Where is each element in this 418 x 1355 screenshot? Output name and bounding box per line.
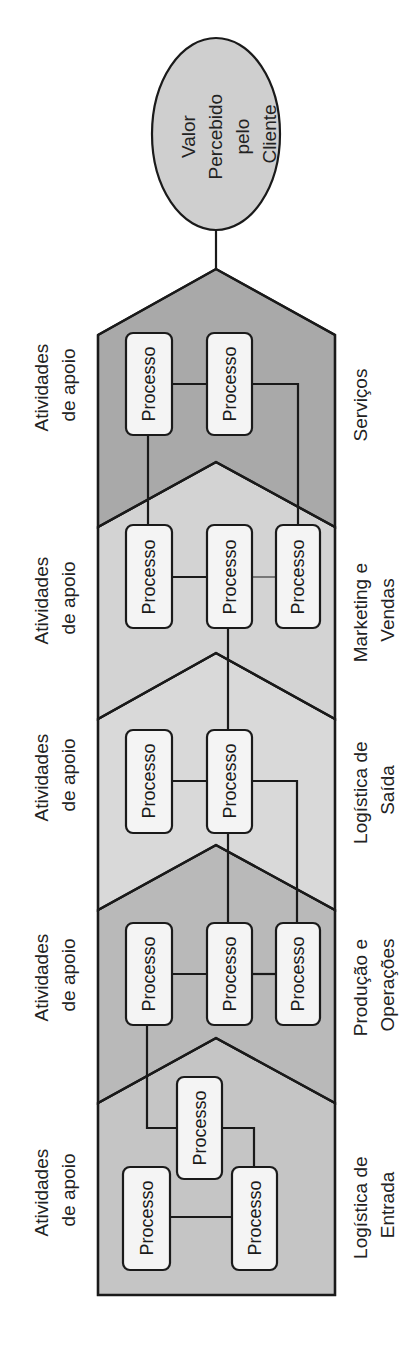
support-label-producao: Atividades de apoio bbox=[31, 929, 79, 1022]
svg-text:Processo: Processo bbox=[288, 936, 308, 1011]
svg-text:Processo: Processo bbox=[245, 1180, 265, 1255]
stage-name-marketing-vendas: Marketing e Vendas bbox=[350, 558, 398, 663]
svg-text:Processo: Processo bbox=[220, 346, 240, 421]
process-box: Processo bbox=[207, 730, 252, 833]
svg-text:Processo: Processo bbox=[220, 539, 240, 614]
svg-text:Processo: Processo bbox=[139, 539, 159, 614]
stage-name-logistica-saida: Logística de Saída bbox=[350, 736, 398, 844]
svg-text:Processo: Processo bbox=[139, 743, 159, 818]
process-box: Processo bbox=[207, 525, 252, 628]
svg-text:Processo: Processo bbox=[139, 936, 159, 1011]
stage-name-servicos: Serviços bbox=[350, 369, 371, 442]
support-label-servicos: Atividades de apoio bbox=[31, 339, 79, 432]
stage-name-producao-operacoes: Produção e Operações bbox=[350, 934, 398, 1036]
svg-text:Processo: Processo bbox=[220, 936, 240, 1011]
svg-text:Processo: Processo bbox=[220, 743, 240, 818]
process-box: Processo bbox=[126, 333, 172, 435]
support-label-saida: Atividades de apoio bbox=[31, 729, 79, 822]
svg-text:Processo: Processo bbox=[190, 1090, 210, 1165]
process-box: Processo bbox=[126, 730, 172, 833]
process-box: Processo bbox=[276, 923, 320, 1025]
process-box: Processo bbox=[207, 333, 252, 435]
process-box: Processo bbox=[123, 1167, 170, 1270]
process-box: Processo bbox=[177, 1077, 222, 1179]
process-box: Processo bbox=[276, 525, 320, 628]
process-box: Processo bbox=[126, 923, 172, 1025]
svg-text:Processo: Processo bbox=[288, 539, 308, 614]
support-label-marketing: Atividades de apoio bbox=[31, 552, 79, 645]
process-box: Processo bbox=[232, 1167, 277, 1270]
process-box: Processo bbox=[207, 923, 252, 1025]
process-box: Processo bbox=[126, 525, 172, 628]
value-chain-diagram: Valor Percebido pelo Cliente Processo Pr… bbox=[0, 0, 418, 1355]
svg-text:Processo: Processo bbox=[137, 1180, 157, 1255]
stage-name-logistica-entrada: Logística de Entrada bbox=[350, 1151, 398, 1259]
svg-text:Processo: Processo bbox=[139, 346, 159, 421]
support-label-entrada: Atividades de apoio bbox=[31, 1144, 79, 1237]
